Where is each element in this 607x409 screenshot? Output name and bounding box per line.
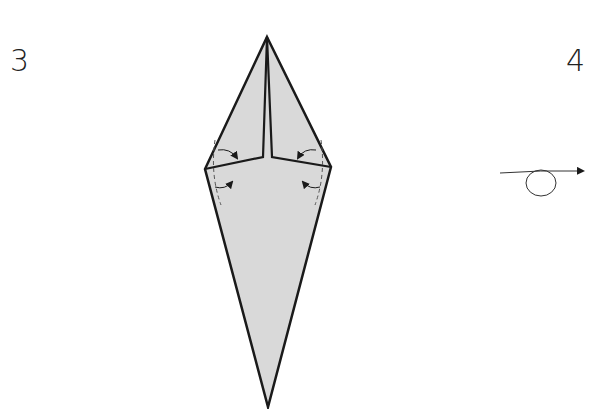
origami-diagram bbox=[0, 0, 607, 409]
turn-over-loop-arrow-icon bbox=[500, 170, 583, 196]
kite-model bbox=[205, 37, 331, 407]
